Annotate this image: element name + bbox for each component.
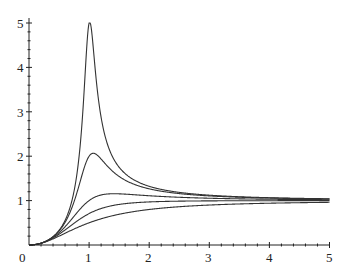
axes-group (26, 18, 330, 248)
curve-zeta-0-1 (29, 23, 330, 245)
y-tick-label-2: 2 (17, 149, 24, 164)
x-tick-label-5: 5 (326, 250, 333, 265)
origin-label: 0 (19, 250, 26, 265)
y-tick-label-4: 4 (17, 60, 24, 75)
y-tick-label-1: 1 (17, 193, 24, 208)
line-chart: 0 1 2 3 4 5 1 2 3 4 5 (0, 0, 351, 279)
x-tick-label-2: 2 (145, 250, 152, 265)
x-tick-label-1: 1 (85, 250, 92, 265)
y-tick-label-3: 3 (17, 105, 24, 120)
y-tick-label-5: 5 (17, 16, 24, 31)
x-tick-label-3: 3 (205, 250, 212, 265)
x-tick-label-4: 4 (266, 250, 273, 265)
tick-marks (26, 23, 330, 248)
curve-zeta-0-707 (29, 201, 330, 245)
curves-group (29, 23, 330, 245)
